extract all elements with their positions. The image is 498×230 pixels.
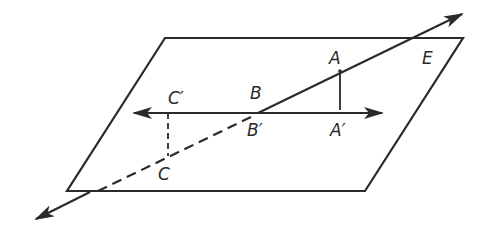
label-b: B (250, 85, 262, 102)
label-c: C (158, 166, 170, 183)
line-bc-dashed (98, 117, 251, 191)
label-b-prime: B′ (247, 122, 263, 139)
point-a (338, 69, 342, 73)
line-c-lower-ray (36, 192, 90, 219)
label-a: A (329, 50, 341, 67)
label-e: E (422, 50, 433, 67)
label-a-prime: A′ (330, 122, 346, 139)
plane-e (67, 38, 463, 191)
label-c-prime: C′ (168, 90, 184, 107)
geometry-diagram (0, 0, 498, 230)
